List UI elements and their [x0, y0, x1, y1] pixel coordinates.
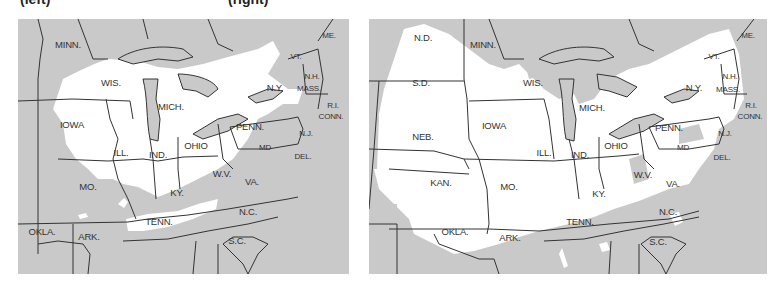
state-label: DEL. — [295, 152, 312, 161]
state-label: VT. — [291, 52, 302, 61]
state-label: N.C. — [239, 206, 257, 217]
state-label: MASS. — [297, 84, 321, 93]
state-label: MICH. — [579, 102, 605, 113]
state-label: R.I. — [745, 101, 757, 110]
state-label: N.D. — [414, 32, 432, 43]
state-label: OHIO — [184, 140, 207, 151]
state-label: MICH. — [158, 101, 184, 112]
state-label: WIS. — [101, 77, 121, 88]
state-label: MD — [677, 143, 689, 152]
state-label: IND. — [149, 149, 167, 160]
state-label: ME. — [741, 31, 755, 40]
state-label: MD — [259, 143, 271, 152]
state-label: NEB. — [412, 131, 433, 142]
state-label: S.C. — [649, 236, 667, 247]
state-label: DEL. — [714, 153, 731, 162]
state-label: N.Y. — [686, 82, 702, 93]
state-label: W.V. — [634, 169, 652, 180]
state-label: MINN. — [470, 39, 496, 50]
state-label: CONN. — [738, 112, 763, 121]
state-label: KAN. — [430, 177, 451, 188]
state-label: ILL. — [113, 147, 128, 158]
state-label: VA. — [666, 178, 680, 189]
state-label: N.Y. — [267, 82, 283, 93]
state-label: OKLA. — [442, 226, 469, 237]
state-label: OKLA. — [29, 226, 56, 237]
state-label: PENN. — [236, 121, 264, 132]
snow-cover-map-left: MINN.WIS.MICH.N.Y.VT.N.H.MASS.ME.R.I.CON… — [18, 19, 349, 274]
state-label: KY. — [170, 187, 184, 198]
state-label: N.J. — [718, 129, 731, 138]
state-label: KY. — [592, 188, 606, 199]
state-label: R.I. — [327, 101, 339, 110]
state-label: W.V. — [213, 168, 231, 179]
state-label: PENN. — [655, 122, 683, 133]
state-label: TENN. — [566, 216, 594, 227]
state-label: WIS. — [523, 77, 543, 88]
map-right-drawing — [369, 19, 767, 274]
caption-right-fragment: (right) — [228, 0, 268, 7]
state-label: N.C. — [659, 206, 677, 217]
state-label: TENN. — [145, 216, 173, 227]
caption-left-fragment: (left) — [20, 0, 50, 7]
state-label: N.H. — [304, 72, 319, 81]
state-label: VT. — [709, 52, 720, 61]
state-label: MINN. — [55, 39, 81, 50]
state-label: MASS. — [716, 85, 740, 94]
state-label: ILL. — [536, 147, 551, 158]
state-label: S.C. — [228, 235, 246, 246]
state-label: ME. — [322, 31, 336, 40]
state-label: N.J. — [299, 129, 312, 138]
state-label: N.H. — [722, 72, 737, 81]
state-label: S.D. — [412, 77, 430, 88]
state-label: IND. — [571, 149, 589, 160]
state-label: MO. — [79, 181, 96, 192]
state-label: ARK. — [78, 231, 99, 242]
state-label: IOWA — [482, 120, 506, 131]
state-label: IOWA — [60, 119, 84, 130]
state-label: OHIO — [604, 140, 627, 151]
state-label: ARK. — [499, 232, 520, 243]
snow-cover-map-right: N.D.MINN.S.D.WIS.MICH.N.Y.VT.N.H.MASS.ME… — [369, 19, 767, 274]
state-label: CONN. — [319, 112, 344, 121]
state-label: MO. — [500, 181, 517, 192]
state-label: VA. — [245, 176, 259, 187]
figure-caption: (left) (right) — [0, 0, 771, 5]
